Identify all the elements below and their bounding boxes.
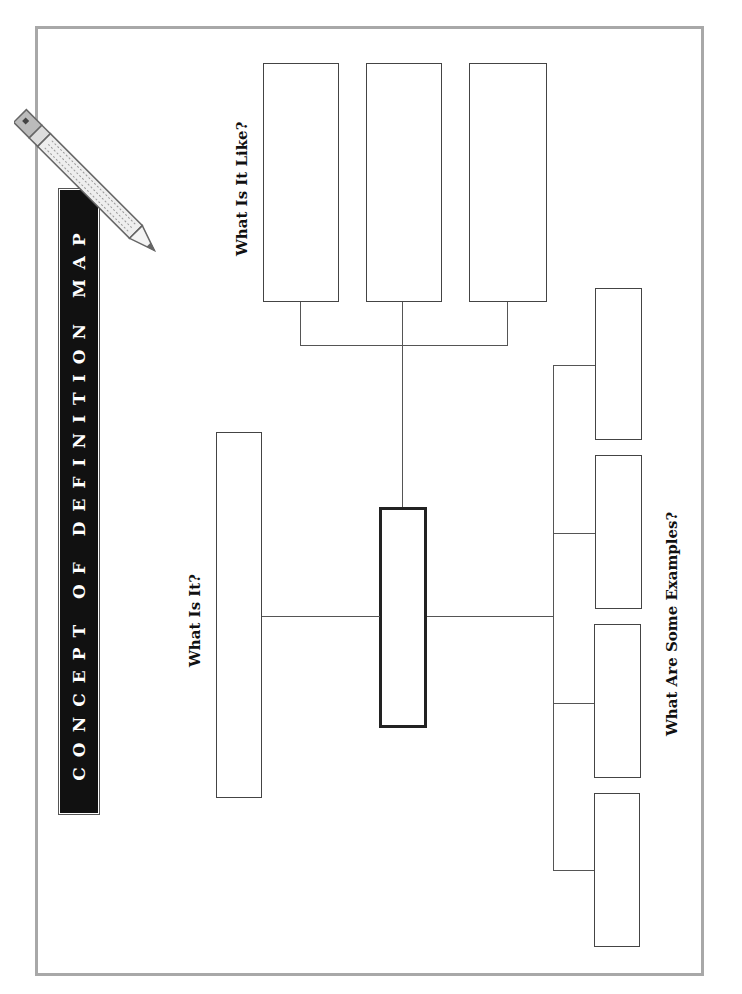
label-what-is-it: What Is It? <box>186 574 204 667</box>
what-is-it-box[interactable] <box>216 432 262 798</box>
title-bar: CONCEPT OF DEFINITION MAP <box>60 190 98 813</box>
connector <box>553 533 595 534</box>
like-box-1[interactable] <box>263 63 339 302</box>
example-box-1[interactable] <box>595 288 642 440</box>
connector <box>553 365 554 871</box>
example-box-4[interactable] <box>594 793 640 947</box>
connector <box>553 870 595 871</box>
connector <box>553 703 595 704</box>
connector <box>507 302 508 346</box>
connector <box>553 365 595 366</box>
connector <box>427 616 554 617</box>
example-box-2[interactable] <box>595 455 642 609</box>
label-examples: What Are Some Examples? <box>663 512 681 736</box>
like-box-3[interactable] <box>469 63 547 302</box>
connector <box>262 616 380 617</box>
example-box-3[interactable] <box>594 624 641 778</box>
connector <box>402 302 403 509</box>
pencil-icon <box>14 108 159 258</box>
concept-box[interactable] <box>379 507 427 728</box>
connector <box>300 345 508 346</box>
like-box-2[interactable] <box>366 63 442 302</box>
connector <box>300 302 301 346</box>
page-title: CONCEPT OF DEFINITION MAP <box>69 223 89 780</box>
label-what-is-it-like: What Is It Like? <box>233 122 251 256</box>
